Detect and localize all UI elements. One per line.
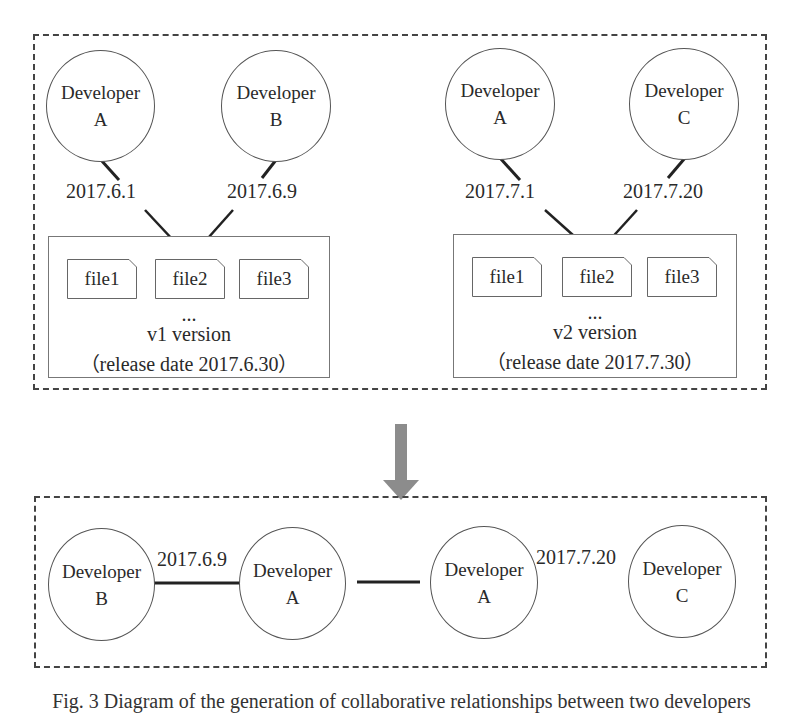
developer-name: Developer <box>62 558 141 585</box>
developer-name: Developer <box>642 555 721 582</box>
developer-name: Developer <box>253 557 332 584</box>
developer-id: A <box>477 583 491 610</box>
edge-label-a-c: 2017.7.20 <box>536 546 616 569</box>
edge-label-b-a: 2017.6.9 <box>157 548 227 571</box>
developer-node-a-graph-2: Developer A <box>430 526 538 639</box>
figure-caption: Fig. 3 Diagram of the generation of coll… <box>0 690 803 713</box>
developer-node-b-graph: Developer B <box>48 528 155 641</box>
developer-id: B <box>95 585 108 612</box>
developer-id: C <box>676 582 689 609</box>
developer-node-a-graph-1: Developer A <box>239 527 346 640</box>
developer-name: Developer <box>444 556 523 583</box>
developer-id: A <box>286 584 300 611</box>
developer-node-c-graph: Developer C <box>628 525 736 638</box>
